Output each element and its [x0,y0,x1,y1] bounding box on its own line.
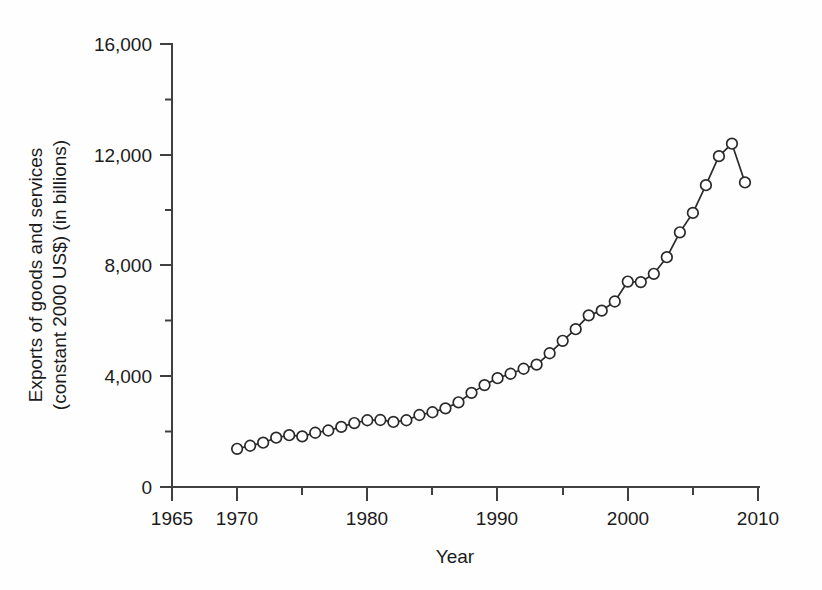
data-point-marker[interactable] [596,305,607,316]
x-tick-label-2000: 2000 [607,508,649,529]
data-point-marker[interactable] [740,177,751,188]
y-axis-title-group: Exports of goods and services (constant … [25,140,70,410]
data-point-marker[interactable] [675,227,686,238]
data-point-marker[interactable] [479,380,490,391]
line-chart: 0 4,000 8,000 12,000 16,000 1965 1970 19… [0,0,822,590]
series-line [237,144,745,449]
data-point-marker[interactable] [349,418,360,429]
data-point-marker[interactable] [375,415,386,426]
data-point-marker[interactable] [622,276,633,287]
data-point-marker[interactable] [583,310,594,321]
data-point-marker[interactable] [414,410,425,421]
y-axis-title-line2: (constant 2000 US$) (in billions) [49,140,70,410]
data-point-marker[interactable] [258,437,269,448]
x-tick-label-1965: 1965 [151,508,193,529]
y-major-ticks [160,44,172,487]
data-point-marker[interactable] [649,269,660,280]
data-point-marker[interactable] [271,432,282,443]
x-tick-labels: 1965 1970 1980 1990 2000 2010 [151,508,779,529]
data-point-marker[interactable] [531,359,542,370]
data-point-marker[interactable] [518,363,529,374]
data-point-marker[interactable] [466,388,477,399]
y-tick-label-8000: 8,000 [104,255,152,276]
y-tick-label-16000: 16,000 [94,34,152,55]
data-point-marker[interactable] [544,348,555,359]
data-point-marker[interactable] [284,430,295,441]
data-point-marker[interactable] [232,443,243,454]
data-point-marker[interactable] [570,324,581,335]
data-point-marker[interactable] [662,252,673,263]
y-tick-labels: 0 4,000 8,000 12,000 16,000 [94,34,152,498]
y-tick-label-0: 0 [141,477,152,498]
data-point-marker[interactable] [427,407,438,418]
data-point-marker[interactable] [557,336,568,347]
data-point-marker[interactable] [401,415,412,426]
data-point-marker[interactable] [636,277,647,288]
data-point-marker[interactable] [688,208,699,219]
data-point-marker[interactable] [323,425,334,436]
data-point-marker[interactable] [336,422,347,433]
y-tick-label-4000: 4,000 [104,366,152,387]
y-axis-title-line1: Exports of goods and services [25,148,46,403]
data-series [232,138,750,454]
chart-page: 0 4,000 8,000 12,000 16,000 1965 1970 19… [0,0,822,590]
y-tick-label-12000: 12,000 [94,145,152,166]
axes-group [172,44,759,487]
x-tick-label-2010: 2010 [737,508,779,529]
data-point-marker[interactable] [701,180,712,191]
x-tick-label-1970: 1970 [216,508,258,529]
data-point-marker[interactable] [453,397,464,408]
data-point-marker[interactable] [505,368,516,379]
data-point-marker[interactable] [609,296,620,307]
x-tick-label-1980: 1980 [346,508,388,529]
data-point-marker[interactable] [245,440,256,451]
data-point-marker[interactable] [297,431,308,442]
x-major-ticks [172,487,758,501]
data-point-marker[interactable] [714,151,725,162]
data-point-marker[interactable] [440,403,451,414]
x-tick-label-1990: 1990 [476,508,518,529]
x-axis-title: Year [436,546,475,567]
data-point-marker[interactable] [727,138,738,149]
data-point-marker[interactable] [388,417,399,428]
data-point-marker[interactable] [492,373,503,384]
data-point-marker[interactable] [362,415,373,426]
data-point-marker[interactable] [310,427,321,438]
